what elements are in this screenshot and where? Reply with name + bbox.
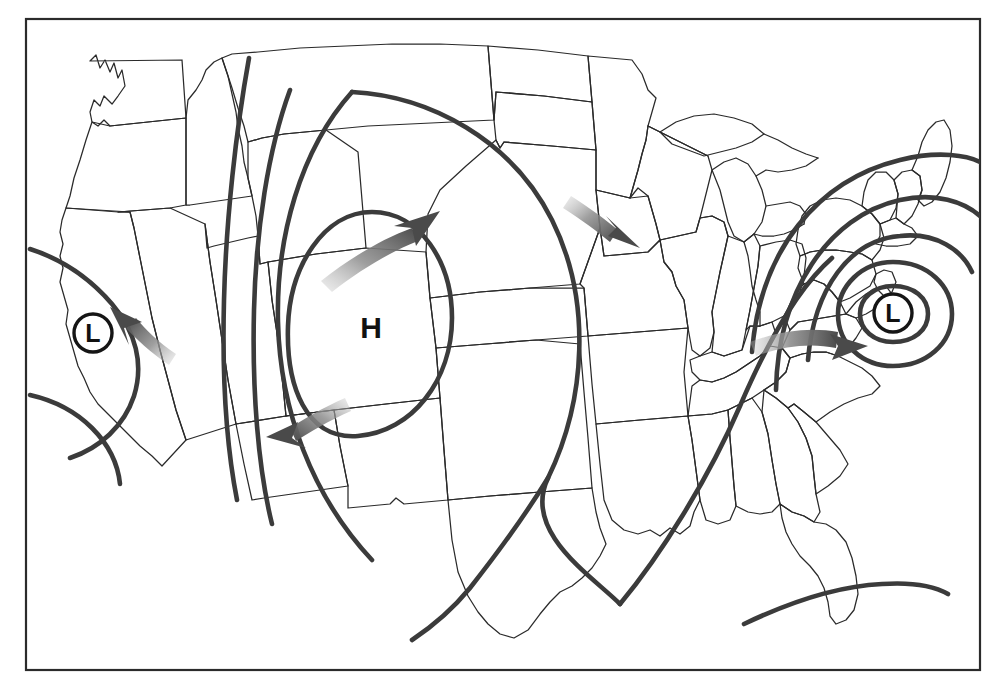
pressure-center-high-central[interactable]: H [360, 311, 382, 344]
low-west-label: L [85, 319, 100, 347]
low-east-label: L [885, 299, 900, 327]
map-frame [26, 19, 980, 670]
weather-map-canvas: L H L [0, 0, 1003, 684]
pressure-center-low-east[interactable]: L [874, 294, 912, 332]
high-central-label: H [360, 311, 382, 344]
pressure-center-low-west[interactable]: L [74, 314, 112, 352]
weather-map-figure: L H L L H L Contiguous United States [0, 0, 1003, 684]
